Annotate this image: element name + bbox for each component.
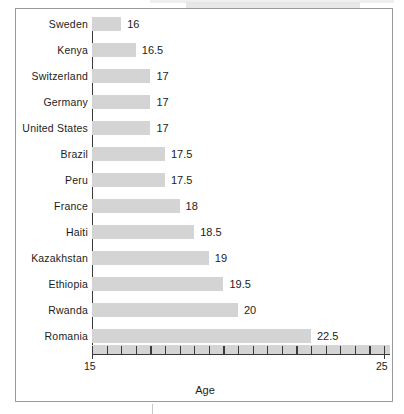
- x-axis-minor-tick: [180, 346, 181, 354]
- bar-category-label: Peru: [0, 169, 88, 191]
- bar: [92, 251, 209, 265]
- bar-value-label: 19: [215, 247, 227, 269]
- page-fold-line: [152, 404, 153, 414]
- x-axis-major-tick: [92, 346, 93, 359]
- bar-value-label: 17: [156, 117, 168, 139]
- x-axis-minor-tick: [296, 346, 297, 354]
- bar-category-label: Romania: [0, 325, 88, 347]
- bar-category-label: Rwanda: [0, 299, 88, 321]
- bar-category-label: Kazakhstan: [0, 247, 88, 269]
- bar-category-label: United States: [0, 117, 88, 139]
- bar: [92, 225, 194, 239]
- bar-category-label: Brazil: [0, 143, 88, 165]
- bar-row: United States17: [16, 117, 394, 139]
- bar: [92, 69, 150, 83]
- bar-value-label: 22.5: [317, 325, 338, 347]
- x-axis-minor-tick: [369, 346, 370, 354]
- x-axis-minor-tick: [107, 346, 108, 354]
- x-axis-minor-tick: [340, 346, 341, 354]
- bar-value-label: 17: [156, 65, 168, 87]
- bar-category-label: Haiti: [0, 221, 88, 243]
- bar-value-label: 17.5: [171, 143, 192, 165]
- bar-category-label: Germany: [0, 91, 88, 113]
- bar-row: Ethiopia19.5: [16, 273, 394, 295]
- bar-row: Switzerland17: [16, 65, 394, 87]
- bar-value-label: 16: [127, 13, 139, 35]
- bar-row: France18: [16, 195, 394, 217]
- bar: [92, 329, 311, 343]
- bar-value-label: 17.5: [171, 169, 192, 191]
- bar: [92, 17, 121, 31]
- bar-row: Brazil17.5: [16, 143, 394, 165]
- bar: [92, 199, 180, 213]
- bar-category-label: Ethiopia: [0, 273, 88, 295]
- bar: [92, 303, 238, 317]
- x-axis-minor-tick: [326, 346, 327, 354]
- x-axis-minor-tick: [223, 346, 224, 354]
- bar: [92, 121, 150, 135]
- bar-chart-plot-area: Sweden16Kenya16.5Switzerland17Germany17U…: [16, 9, 394, 403]
- bar-row: Sweden16: [16, 13, 394, 35]
- x-axis-minor-tick: [238, 346, 239, 354]
- bar-row: Kenya16.5: [16, 39, 394, 61]
- bar-value-label: 19.5: [229, 273, 250, 295]
- bar-row: Germany17: [16, 91, 394, 113]
- bar-value-label: 17: [156, 91, 168, 113]
- bar-row: Kazakhstan19: [16, 247, 394, 269]
- bar: [92, 43, 136, 57]
- bar: [92, 147, 165, 161]
- chart-frame: Sweden16Kenya16.5Switzerland17Germany17U…: [15, 8, 393, 402]
- bar-category-label: Kenya: [0, 39, 88, 61]
- x-axis-minor-tick: [150, 346, 151, 354]
- bar-row: Peru17.5: [16, 169, 394, 191]
- bar: [92, 173, 165, 187]
- bar-category-label: France: [0, 195, 88, 217]
- x-axis-minor-tick: [282, 346, 283, 354]
- x-axis-minor-tick: [253, 346, 254, 354]
- x-axis-tick-label: 25: [376, 360, 388, 372]
- x-axis-minor-tick: [136, 346, 137, 354]
- bar-row: Romania22.5: [16, 325, 394, 347]
- bar-value-label: 18.5: [200, 221, 221, 243]
- bar-category-label: Sweden: [0, 13, 88, 35]
- x-axis-minor-tick: [194, 346, 195, 354]
- x-axis-minor-tick: [267, 346, 268, 354]
- bar-category-label: Switzerland: [0, 65, 88, 87]
- x-axis-major-tick: [384, 346, 385, 359]
- bar-value-label: 20: [244, 299, 256, 321]
- x-axis-minor-tick: [355, 346, 356, 354]
- x-axis-tick-label: 15: [84, 360, 96, 372]
- bar-value-label: 18: [186, 195, 198, 217]
- bar-value-label: 16.5: [142, 39, 163, 61]
- x-axis-minor-tick: [121, 346, 122, 354]
- x-axis-line: [92, 354, 390, 355]
- bar-row: Haiti18.5: [16, 221, 394, 243]
- x-axis-minor-tick: [311, 346, 312, 354]
- x-axis-title: Age: [16, 384, 394, 396]
- bar: [92, 277, 223, 291]
- x-axis-minor-tick: [209, 346, 210, 354]
- x-axis-minor-tick: [165, 346, 166, 354]
- bar-row: Rwanda20: [16, 299, 394, 321]
- bar: [92, 95, 150, 109]
